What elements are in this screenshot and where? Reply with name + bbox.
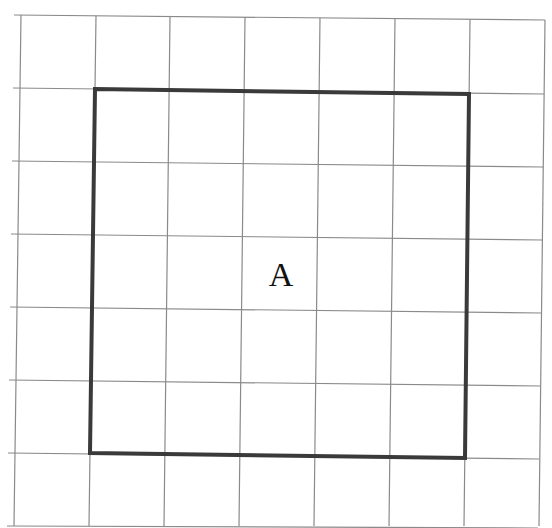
grid-horizontal-line (11, 234, 542, 240)
square-label: A (269, 256, 294, 293)
grid-vertical-line (239, 17, 245, 526)
grid-horizontal-line (9, 380, 540, 386)
grid-horizontal-line (14, 15, 545, 20)
grid-vertical-line (14, 15, 21, 526)
grid-horizontal-line (10, 307, 541, 313)
grid-horizontal-line (12, 161, 543, 167)
grid-vertical-line (164, 16, 170, 526)
grid-diagram: A (0, 0, 552, 528)
grid-vertical-line (314, 18, 320, 526)
grid-vertical-line (539, 20, 545, 526)
